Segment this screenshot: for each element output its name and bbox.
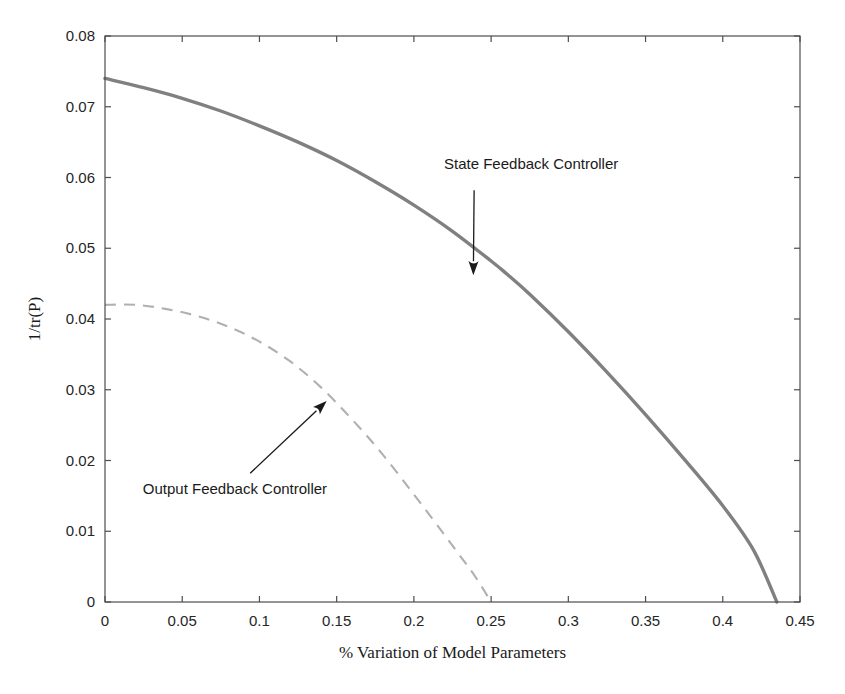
y-tick-label: 0.02 xyxy=(66,452,95,469)
x-tick-label: 0.35 xyxy=(631,612,660,629)
tick-label-layer: 00.050.10.150.20.250.30.350.40.4500.010.… xyxy=(66,27,815,629)
annotation-arrow-head xyxy=(468,261,478,275)
annotation-layer: State Feedback ControllerOutput Feedback… xyxy=(143,155,618,497)
x-tick-label: 0.4 xyxy=(712,612,733,629)
x-tick-label: 0.1 xyxy=(249,612,270,629)
y-tick-label: 0.08 xyxy=(66,27,95,44)
x-tick-label: 0.15 xyxy=(322,612,351,629)
y-tick-label: 0.04 xyxy=(66,310,95,327)
x-axis-title: % Variation of Model Parameters xyxy=(339,643,566,662)
annotation-label-1: State Feedback Controller xyxy=(444,155,618,172)
y-tick-label: 0.06 xyxy=(66,169,95,186)
x-tick-label: 0.25 xyxy=(477,612,506,629)
y-tick-label: 0.03 xyxy=(66,381,95,398)
series-line-1 xyxy=(105,78,777,602)
y-axis-title: 1/tr(P) xyxy=(25,297,44,341)
y-tick-label: 0.07 xyxy=(66,98,95,115)
y-tick-label: 0.01 xyxy=(66,522,95,539)
annotation-label-2: Output Feedback Controller xyxy=(143,480,327,497)
y-tick-label: 0.05 xyxy=(66,239,95,256)
x-tick-label: 0.05 xyxy=(168,612,197,629)
chart-figure: 00.050.10.150.20.250.30.350.40.4500.010.… xyxy=(0,0,845,694)
annotation-arrow-line xyxy=(250,411,316,474)
plot-canvas: 00.050.10.150.20.250.30.350.40.4500.010.… xyxy=(0,0,845,694)
x-tick-label: 0.2 xyxy=(403,612,424,629)
x-tick-label: 0 xyxy=(101,612,109,629)
series-line-2 xyxy=(105,305,491,602)
x-tick-label: 0.3 xyxy=(558,612,579,629)
y-tick-label: 0 xyxy=(87,593,95,610)
series-layer xyxy=(105,78,777,602)
x-tick-label: 0.45 xyxy=(785,612,814,629)
annotation-arrow-line xyxy=(473,190,474,261)
